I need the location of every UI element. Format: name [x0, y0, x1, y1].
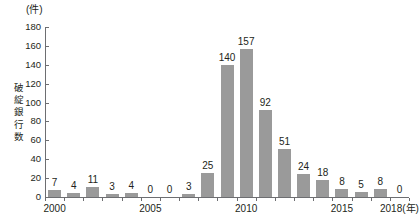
bar-value-label: 0	[397, 184, 403, 195]
x-axis-tick-mark	[217, 198, 218, 201]
bar	[106, 194, 119, 197]
x-axis-tick-mark	[256, 198, 257, 201]
bar-value-label: 0	[167, 184, 173, 195]
bar	[374, 189, 387, 197]
bar	[297, 174, 310, 197]
x-axis-tick-mark	[294, 198, 295, 201]
y-axis-tick-label: 40	[30, 154, 41, 164]
y-axis-tick-labels: 020406080100120140160180	[0, 0, 41, 224]
bar-value-label: 51	[279, 136, 290, 147]
bar	[355, 192, 368, 197]
x-axis-line	[45, 197, 409, 198]
x-axis-tick-mark	[83, 198, 84, 201]
y-axis-tick-label: 160	[25, 41, 41, 51]
bar-value-label: 5	[358, 179, 364, 190]
bar	[67, 193, 80, 197]
bar	[259, 110, 272, 197]
x-axis-tick-mark	[332, 198, 333, 201]
bar-value-label: 25	[202, 160, 213, 171]
x-axis-tick-mark	[45, 198, 46, 201]
bar-value-label: 11	[88, 174, 98, 185]
bar	[240, 49, 253, 197]
x-axis-tick-mark	[409, 198, 410, 201]
x-axis-tick-mark	[141, 198, 142, 201]
bar-value-label: 3	[186, 181, 192, 192]
x-axis-tick-label: 2005	[139, 203, 161, 215]
x-axis-tick-mark	[198, 198, 199, 201]
x-axis-tick-mark	[352, 198, 353, 201]
x-axis-tick-mark	[122, 198, 123, 201]
bar-value-label: 0	[148, 184, 154, 195]
x-axis-tick-mark	[102, 198, 103, 201]
x-axis-tick-mark	[390, 198, 391, 201]
x-axis-tick-mark	[237, 198, 238, 201]
bar-value-label: 3	[109, 181, 115, 192]
bar	[125, 193, 138, 197]
y-axis-tick-label: 100	[25, 98, 41, 108]
bar-value-label: 18	[317, 167, 328, 178]
bar	[86, 187, 99, 197]
x-axis-tick-mark	[64, 198, 65, 201]
y-axis-tick-label: 180	[25, 22, 41, 32]
x-axis-tick-mark	[371, 198, 372, 201]
bar	[182, 194, 195, 197]
x-axis-tick-mark	[160, 198, 161, 201]
bar	[335, 189, 348, 197]
bar-value-label: 4	[71, 180, 77, 191]
y-axis-tick-label: 120	[25, 79, 41, 89]
bar	[316, 180, 329, 197]
bar-value-label: 8	[377, 176, 383, 187]
x-axis-tick-mark	[179, 198, 180, 201]
bar	[278, 149, 291, 197]
y-axis-tick-label: 0	[36, 192, 41, 202]
x-axis-tick-label: 2000	[43, 203, 65, 215]
bar	[48, 190, 61, 197]
x-axis-tick-label: 2018(年)	[380, 203, 419, 215]
y-axis-tick-label: 140	[25, 60, 41, 70]
bar	[201, 173, 214, 197]
bar-value-label: 8	[339, 176, 345, 187]
bar-value-label: 157	[238, 36, 255, 47]
bar-value-label: 4	[128, 180, 134, 191]
y-axis-tick-label: 80	[30, 116, 41, 126]
x-axis-tick-label: 2010	[235, 203, 257, 215]
bar-value-label: 140	[219, 52, 236, 63]
y-axis-tick-label: 20	[30, 173, 41, 183]
x-axis-tick-mark	[313, 198, 314, 201]
bar-value-label: 24	[298, 161, 309, 172]
bar	[221, 65, 234, 197]
x-axis-tick-label: 2015	[331, 203, 353, 215]
bar-value-label: 7	[52, 177, 58, 188]
bar-value-label: 92	[260, 97, 271, 108]
y-axis-tick-label: 60	[30, 135, 41, 145]
x-axis-tick-mark	[275, 198, 276, 201]
